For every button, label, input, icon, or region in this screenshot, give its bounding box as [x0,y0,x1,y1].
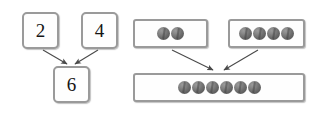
counter-group-one-row [157,27,184,40]
counter-total-row [178,81,261,94]
counter [267,27,280,40]
counter [178,81,191,94]
counter-arrow-left [172,50,213,70]
number-box-whole: 6 [53,66,90,103]
counter [239,27,252,40]
counter-group-two-row [239,27,294,40]
counter [253,27,266,40]
number-bond-arrow-left [43,50,67,64]
number-bond-arrow-right [75,50,98,64]
counter-box-total [133,73,305,102]
figure-canvas: 2 4 6 [0,0,319,117]
counter [281,27,294,40]
counter [220,81,233,94]
number-box-part-two: 4 [81,12,118,49]
number-box-part-one-label: 2 [36,21,46,40]
counter [206,81,219,94]
counter [234,81,247,94]
counter [171,27,184,40]
number-box-part-one: 2 [22,12,59,49]
counter-box-group-two [228,19,305,48]
counter [157,27,170,40]
number-box-whole-label: 6 [67,75,77,94]
counter-box-group-one [133,19,208,48]
number-box-part-two-label: 4 [95,21,105,40]
counter [192,81,205,94]
counter [248,81,261,94]
counter-arrow-right [224,50,258,70]
